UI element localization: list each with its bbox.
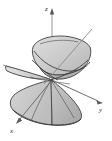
origin-point [51, 79, 53, 81]
axis-z-label: z [44, 5, 48, 13]
figure-container: z [0, 0, 112, 141]
surface-plot-svg: z [0, 0, 112, 141]
